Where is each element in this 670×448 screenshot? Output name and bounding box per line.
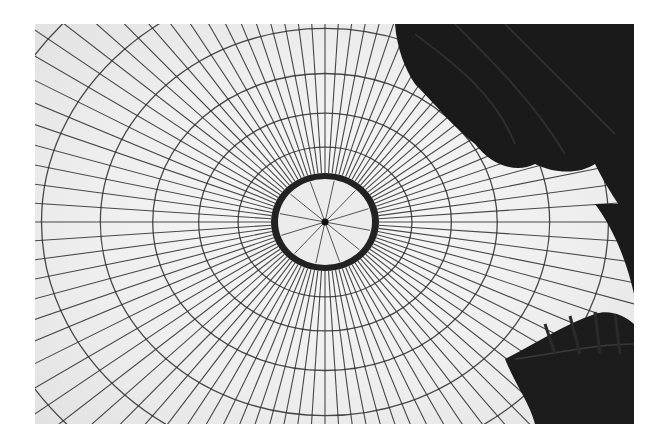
- dome-illustration: [35, 24, 634, 424]
- oculus: [271, 173, 379, 271]
- dome-photograph: [35, 24, 634, 424]
